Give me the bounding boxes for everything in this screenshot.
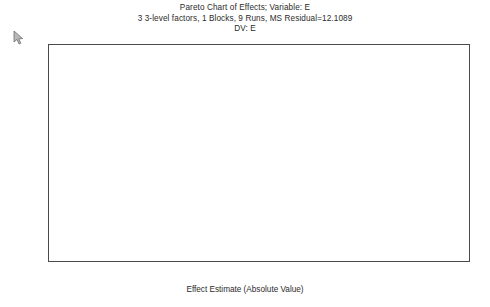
chart-title-block: Pareto Chart of Effects; Variable: E 3 3… bbox=[0, 3, 490, 35]
bars-container bbox=[49, 45, 469, 261]
arrow-cursor-icon bbox=[13, 31, 25, 45]
x-axis bbox=[48, 262, 470, 284]
y-axis-labels bbox=[0, 44, 48, 262]
x-axis-title: Effect Estimate (Absolute Value) bbox=[0, 285, 490, 294]
chart-subtitle-dv: DV: E bbox=[0, 24, 490, 35]
chart-subtitle: 3 3-level factors, 1 Blocks, 9 Runs, MS … bbox=[0, 14, 490, 25]
plot-area bbox=[48, 44, 470, 262]
chart-title: Pareto Chart of Effects; Variable: E bbox=[0, 3, 490, 14]
